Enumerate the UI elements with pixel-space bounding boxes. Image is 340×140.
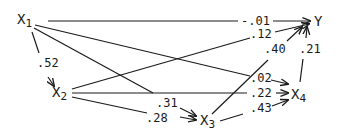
coef-x2-x3: .28 <box>146 112 168 124</box>
node-x2-subscript: 2 <box>60 90 67 103</box>
coef-x1-y: -.01 <box>241 15 270 27</box>
node-x3-subscript: 3 <box>208 118 215 131</box>
edge-x2-x3-arrow <box>180 117 196 120</box>
edge-x4-y <box>300 59 303 82</box>
coef-x4-y: .21 <box>299 43 321 55</box>
edge-x3-x4 <box>220 114 243 121</box>
edge-x1-x2 <box>32 32 39 53</box>
node-x4-subscript: 4 <box>299 92 306 105</box>
coef-x3-y: .40 <box>264 43 286 55</box>
node-x3: X3 <box>200 113 215 127</box>
node-y: Y <box>314 14 322 28</box>
diagram-edges <box>0 0 340 140</box>
coef-x2-y: .12 <box>250 28 272 40</box>
coef-x1-x3: .31 <box>156 97 178 109</box>
coef-x2-x4: .22 <box>250 87 272 99</box>
node-x1: X1 <box>17 12 32 26</box>
edge-x2-y-arrow <box>275 24 309 32</box>
node-y-label: Y <box>314 13 322 29</box>
coef-x1-x2: .52 <box>37 57 59 69</box>
path-diagram: X1 X2 X3 X4 Y -.01 .52 .02 .31 .12 .22 .… <box>0 0 340 140</box>
edge-x3-x4-arrow <box>272 100 288 106</box>
edge-x2-x3 <box>72 97 147 113</box>
edge-x1-x3-arrow <box>180 108 196 116</box>
coef-x3-x4: .43 <box>250 102 272 114</box>
node-x4: X4 <box>291 87 306 101</box>
edge-x4-y-arrow <box>306 27 307 38</box>
node-x1-subscript: 1 <box>25 17 32 30</box>
node-x2: X2 <box>52 85 67 99</box>
edge-x1-x4-arrow <box>271 80 288 84</box>
coef-x1-x4: .02 <box>250 72 272 84</box>
